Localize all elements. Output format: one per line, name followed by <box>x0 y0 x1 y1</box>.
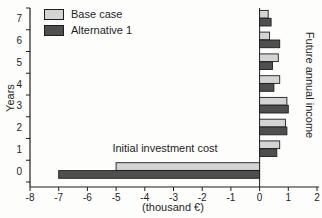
bar-alternative-1-year-1 <box>260 149 277 157</box>
bar-base-case-year-5 <box>260 54 279 62</box>
y-tick-label: 0 <box>16 166 22 177</box>
bar-alternative-1-year-7 <box>260 18 272 26</box>
y-tick-label: 7 <box>16 13 22 24</box>
legend-label-base-case: Base case <box>71 9 122 20</box>
y-tick-label: 2 <box>16 122 22 133</box>
bar-base-case-year-0 <box>116 163 260 171</box>
bar-base-case-year-3 <box>260 97 287 105</box>
legend-label-alternative-1: Alternative 1 <box>71 25 132 36</box>
legend-swatch-alternative-1 <box>44 25 64 36</box>
y-axis-label: Years <box>4 74 16 122</box>
x-tick-label: -8 <box>26 192 35 203</box>
bar-base-case-year-6 <box>260 32 270 40</box>
x-tick-label: -7 <box>54 192 63 203</box>
legend-item-base-case: Base case <box>44 9 132 20</box>
y-tick-label: 1 <box>16 144 22 155</box>
x-tick-label: -6 <box>83 192 92 203</box>
legend-item-alternative-1: Alternative 1 <box>44 25 132 36</box>
bar-base-case-year-1 <box>260 141 280 149</box>
bar-base-case-year-2 <box>260 119 286 127</box>
bar-alternative-1-year-4 <box>260 84 274 92</box>
legend: Base case Alternative 1 <box>44 9 132 36</box>
chart-figure: -8-7-6-5-4-3-2-101276543210 Base case Al… <box>0 0 322 218</box>
x-tick-label: 0 <box>257 192 263 203</box>
bar-alternative-1-year-6 <box>260 40 280 48</box>
y-tick-label: 4 <box>16 79 22 90</box>
bar-alternative-1-year-3 <box>260 105 289 113</box>
y-tick-label: 5 <box>16 57 22 68</box>
x-axis-label: (thousand €) <box>113 201 233 213</box>
bar-base-case-year-4 <box>260 76 280 84</box>
legend-swatch-base-case <box>44 9 64 20</box>
right-axis-label: Future annual income <box>304 25 316 145</box>
bar-alternative-1-year-5 <box>260 62 273 70</box>
x-tick-label: 2 <box>314 192 320 203</box>
bar-base-case-year-7 <box>260 10 269 18</box>
y-tick-label: 6 <box>16 35 22 46</box>
annotation-initial-investment-cost: Initial investment cost <box>99 142 231 154</box>
bar-alternative-1-year-0 <box>59 171 260 179</box>
y-tick-label: 3 <box>16 100 22 111</box>
x-tick-label: 1 <box>286 192 292 203</box>
bar-alternative-1-year-2 <box>260 127 287 135</box>
